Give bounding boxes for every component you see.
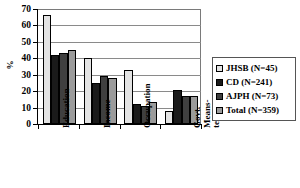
bar — [165, 111, 173, 124]
x-category-label: Occupation — [143, 83, 153, 128]
y-tick-label: 40 — [0, 53, 36, 63]
y-tick-label: 30 — [0, 70, 36, 80]
bar — [173, 90, 181, 124]
x-category-label: Education — [62, 88, 72, 128]
y-tick-label: 50 — [0, 37, 36, 47]
bar — [182, 96, 190, 124]
bar-chart-figure: % 010203040506070 EducationIncomeOccupat… — [0, 0, 300, 188]
legend-swatch-icon — [216, 79, 223, 86]
legend-label: CD (N=241) — [226, 77, 272, 87]
legend-label: JHSB (N=45) — [226, 63, 277, 73]
bar — [43, 15, 51, 124]
bar — [84, 58, 92, 124]
chart-legend: JHSB (N=45)CD (N=241)AJPH (N=73)Total (N… — [212, 57, 296, 121]
legend-label: Total (N=359) — [226, 105, 279, 115]
legend-label: AJPH (N=73) — [226, 91, 278, 101]
y-tick-label: 20 — [0, 86, 36, 96]
x-axis-category-labels: EducationIncomeOccupationGovt.Means-test… — [37, 126, 200, 188]
x-category-label: Income — [103, 100, 113, 129]
legend-swatch-icon — [216, 93, 223, 100]
y-tick-label: 0 — [0, 119, 36, 129]
legend-item[interactable]: Total (N=359) — [216, 103, 292, 117]
y-tick-label: 10 — [0, 103, 36, 113]
bar — [133, 104, 141, 124]
bar — [92, 83, 100, 124]
legend-item[interactable]: AJPH (N=73) — [216, 89, 292, 103]
legend-item[interactable]: CD (N=241) — [216, 75, 292, 89]
legend-swatch-icon — [216, 107, 223, 114]
bar — [124, 70, 132, 124]
legend-swatch-icon — [216, 65, 223, 72]
y-tick-label: 70 — [0, 4, 36, 14]
legend-item[interactable]: JHSB (N=45) — [216, 61, 292, 75]
y-tick-label: 60 — [0, 20, 36, 30]
bar — [51, 55, 59, 124]
